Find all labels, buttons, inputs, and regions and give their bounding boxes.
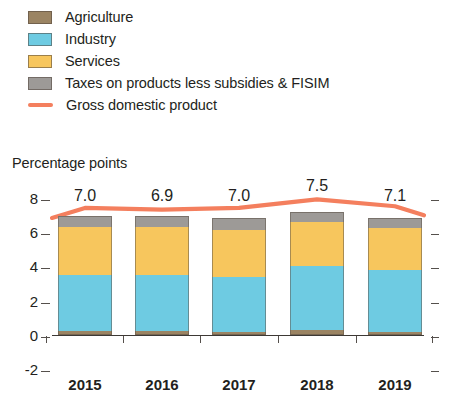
bar-segment xyxy=(212,332,266,335)
bar-segment xyxy=(212,230,266,277)
bar-segment xyxy=(58,216,112,227)
y-axis-tick-mark-right xyxy=(431,268,439,269)
bar-segment xyxy=(135,216,189,227)
bar-segment xyxy=(212,218,266,229)
y-axis-tick-mark-right xyxy=(431,234,439,235)
bar-segment xyxy=(135,275,189,331)
x-axis-tick-mark xyxy=(46,336,47,343)
bar-segment xyxy=(368,228,422,270)
x-axis-tick-mark xyxy=(278,336,279,343)
y-axis-tick-mark-right xyxy=(431,303,439,304)
y-axis-tick-label: 6 xyxy=(12,225,38,240)
y-axis-tick-label: 4 xyxy=(12,259,38,274)
bar-value-label: 7.1 xyxy=(365,188,425,204)
x-axis-category-label: 2017 xyxy=(209,377,269,392)
bar-segment xyxy=(58,275,112,331)
x-axis-tick-mark xyxy=(432,336,433,343)
x-axis-tick-mark xyxy=(200,336,201,343)
bar-segment xyxy=(290,330,344,335)
stacked-bar xyxy=(290,0,344,404)
x-axis-tick-mark xyxy=(123,336,124,343)
bar-segment xyxy=(135,227,189,275)
bar-segment xyxy=(58,227,112,275)
y-axis-tick-label: 2 xyxy=(12,294,38,309)
x-axis-tick-mark xyxy=(356,336,357,343)
y-axis-tick-label: 8 xyxy=(12,191,38,206)
bar-segment xyxy=(58,331,112,335)
x-axis-category-label: 2018 xyxy=(287,377,347,392)
y-axis-tick-mark xyxy=(41,371,50,372)
bar-value-label: 7.0 xyxy=(209,188,269,204)
bar-segment xyxy=(290,266,344,330)
y-axis-tick-label: -2 xyxy=(12,362,38,377)
bar-segment xyxy=(368,218,422,228)
y-axis-tick-mark xyxy=(41,200,50,201)
x-axis-category-label: 2016 xyxy=(132,377,192,392)
bar-segment xyxy=(135,331,189,335)
bar-segment xyxy=(368,332,422,335)
chart-plot-area: -2024687.020156.920167.020177.520187.120… xyxy=(0,0,449,404)
y-axis-tick-label: 0 xyxy=(12,328,38,343)
y-axis-tick-mark-right xyxy=(431,371,439,372)
bar-segment xyxy=(368,270,422,332)
x-axis-category-label: 2019 xyxy=(365,377,425,392)
bar-segment xyxy=(290,222,344,266)
bar-segment xyxy=(290,212,344,222)
bar-value-label: 7.0 xyxy=(55,188,115,204)
y-axis-tick-mark xyxy=(41,303,50,304)
y-axis-tick-mark xyxy=(41,268,50,269)
bar-value-label: 7.5 xyxy=(287,178,347,194)
y-axis-tick-mark xyxy=(41,234,50,235)
y-axis-tick-mark-right xyxy=(431,200,439,201)
bar-segment xyxy=(212,277,266,332)
bar-value-label: 6.9 xyxy=(132,188,192,204)
x-axis-category-label: 2015 xyxy=(55,377,115,392)
